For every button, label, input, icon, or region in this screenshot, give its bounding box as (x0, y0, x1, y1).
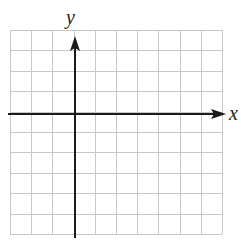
x-axis-label: x (228, 102, 238, 124)
grid-lines (10, 30, 223, 235)
y-axis-label: y (64, 6, 75, 29)
coordinate-plane: x y (0, 0, 241, 240)
